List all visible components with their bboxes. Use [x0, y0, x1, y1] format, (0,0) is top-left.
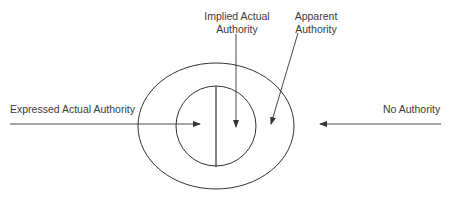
- label-apparent-line2: Authority: [290, 23, 342, 36]
- label-no-authority: No Authority: [383, 103, 440, 116]
- label-implied-line1: Implied Actual: [204, 10, 270, 23]
- label-apparent-line1: Apparent: [290, 10, 342, 23]
- label-expressed-actual-authority: Expressed Actual Authority: [10, 103, 135, 116]
- label-implied-line2: Authority: [204, 23, 270, 36]
- apparent-arrow: [271, 33, 298, 124]
- label-implied-actual-authority: Implied Actual Authority: [204, 10, 270, 36]
- label-apparent-authority: Apparent Authority: [290, 10, 342, 36]
